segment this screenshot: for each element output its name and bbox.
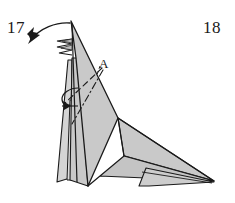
point-label-a: A (99, 57, 108, 70)
pleated-edge (57, 39, 72, 55)
step-number-right: 18 (203, 19, 221, 36)
step-number-left: 17 (7, 19, 25, 36)
origami-diagram (0, 0, 235, 203)
figure-page: 17 18 A (0, 0, 235, 203)
